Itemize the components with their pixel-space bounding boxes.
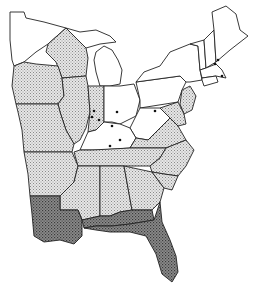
occurrence-dot: [98, 119, 101, 122]
occurrence-dot: [119, 139, 122, 142]
occurrence-dot: [91, 116, 94, 119]
occurrence-dot: [217, 59, 220, 62]
occurrence-dot: [111, 125, 114, 128]
state-maine: [212, 6, 248, 62]
occurrence-dot: [93, 110, 96, 113]
occurrence-dot: [154, 110, 157, 113]
occurrence-dot: [116, 111, 119, 114]
occurrence-dot: [214, 63, 217, 66]
state-connecticut-ri: [202, 76, 218, 86]
state-layer: [10, 6, 248, 282]
state-new-york: [136, 44, 202, 82]
state-iowa: [12, 62, 64, 104]
state-michigan-lp: [94, 46, 122, 86]
state-tennessee: [74, 148, 166, 166]
occurrence-dot: [109, 145, 112, 148]
occurrence-dot: [221, 75, 224, 78]
distribution-map: [0, 0, 259, 302]
